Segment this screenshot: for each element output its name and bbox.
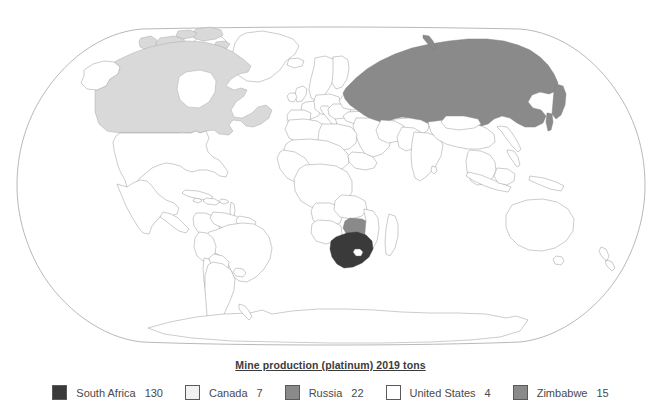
legend-value-south-africa: 130 [145, 387, 163, 399]
platinum-production-map-page: Mine production (platinum) 2019 tons Sou… [0, 0, 661, 417]
legend-label-united-states: United States [410, 387, 476, 399]
legend-label-canada: Canada [209, 387, 248, 399]
legend-item-united-states[interactable]: United States 4 [386, 385, 491, 400]
legend-items-row: South Africa 130 Canada 7 Russia 22 Unit… [0, 385, 661, 400]
legend-label-zimbabwe: Zimbabwe [537, 387, 588, 399]
world-map-container [0, 0, 661, 352]
legend-item-russia[interactable]: Russia 22 [285, 385, 364, 400]
legend-value-canada: 7 [257, 387, 263, 399]
legend-swatch-canada [185, 385, 200, 400]
legend-label-south-africa: South Africa [76, 387, 135, 399]
legend-item-south-africa[interactable]: South Africa 130 [52, 385, 163, 400]
legend-swatch-south-africa [52, 385, 67, 400]
legend-value-russia: 22 [351, 387, 363, 399]
legend-item-zimbabwe[interactable]: Zimbabwe 15 [513, 385, 609, 400]
legend-value-united-states: 4 [485, 387, 491, 399]
legend-swatch-zimbabwe [513, 385, 528, 400]
legend-swatch-united-states [386, 385, 401, 400]
legend-item-canada[interactable]: Canada 7 [185, 385, 263, 400]
map-legend: Mine production (platinum) 2019 tons Sou… [0, 352, 661, 417]
legend-title: Mine production (platinum) 2019 tons [0, 359, 661, 371]
legend-swatch-russia [285, 385, 300, 400]
legend-label-russia: Russia [309, 387, 343, 399]
legend-value-zimbabwe: 15 [596, 387, 608, 399]
world-map-svg [0, 0, 661, 352]
